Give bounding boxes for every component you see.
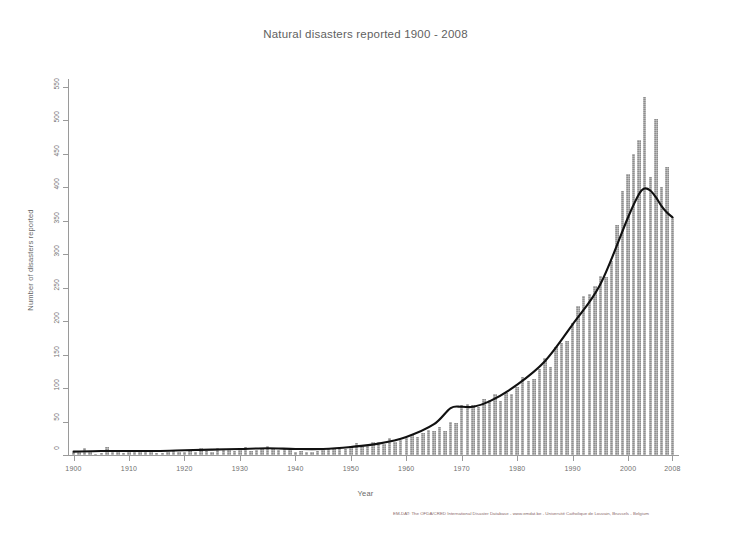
bar (438, 427, 441, 455)
x-tick-mark (628, 456, 629, 461)
bar (399, 440, 402, 455)
bar (665, 167, 668, 455)
bar (122, 453, 125, 455)
y-tick-mark (63, 288, 68, 289)
y-tick-mark (63, 120, 68, 121)
plot-area: 050100150200250300350400450500550 (68, 80, 678, 455)
x-tick-label: 1900 (65, 465, 81, 472)
bar (560, 343, 563, 456)
y-tick-mark (63, 355, 68, 356)
bar (233, 451, 236, 455)
bar (482, 399, 485, 455)
bar (421, 433, 424, 455)
bar (249, 451, 252, 455)
bar (332, 449, 335, 455)
bar (538, 369, 541, 455)
bar (504, 393, 507, 455)
chart-figure: Natural disasters reported 1900 - 2008 N… (0, 0, 731, 557)
x-tick-mark (129, 456, 130, 461)
bar (77, 452, 80, 455)
bar (94, 454, 97, 455)
y-tick-label: 200 (53, 312, 60, 323)
bar (271, 448, 274, 455)
bar (111, 451, 114, 455)
y-tick-label: 550 (53, 78, 60, 89)
bar (626, 174, 629, 455)
bar (260, 449, 263, 455)
x-tick-mark (406, 456, 407, 461)
x-tick-label: 2008 (664, 465, 680, 472)
bar (255, 450, 258, 455)
bar (210, 452, 213, 455)
x-tick-mark (74, 456, 75, 461)
bar (432, 431, 435, 455)
bar (155, 453, 158, 455)
bar (227, 450, 230, 455)
x-tick-mark (573, 456, 574, 461)
bar (316, 451, 319, 455)
y-tick-label: 50 (53, 413, 60, 421)
y-tick-mark (63, 321, 68, 322)
bar (393, 442, 396, 455)
bar (466, 404, 469, 455)
bar (549, 367, 552, 455)
x-tick-label: 1990 (564, 465, 580, 472)
bar (310, 452, 313, 455)
y-axis-label: Number of disasters reported (24, 175, 36, 345)
y-tick-mark (63, 87, 68, 88)
bar (305, 452, 308, 455)
bar (371, 442, 374, 455)
bar (593, 286, 596, 455)
y-tick-label: 350 (53, 212, 60, 223)
x-tick-label: 1920 (176, 465, 192, 472)
bar (349, 446, 352, 455)
x-tick-mark (295, 456, 296, 461)
y-tick-mark (63, 154, 68, 155)
bar (571, 323, 574, 455)
bar (493, 394, 496, 455)
bar (671, 217, 674, 455)
y-tick-mark (63, 254, 68, 255)
bar (327, 448, 330, 455)
bar (183, 452, 186, 455)
bar (244, 447, 247, 455)
y-tick-label: 450 (53, 145, 60, 156)
bar (405, 438, 408, 455)
bar (194, 452, 197, 455)
bar (177, 452, 180, 455)
y-tick-mark (63, 388, 68, 389)
bar (133, 452, 136, 455)
bar (576, 306, 579, 455)
bar (377, 442, 380, 455)
bar (188, 451, 191, 455)
bar (205, 451, 208, 455)
bar (554, 347, 557, 455)
bar (360, 445, 363, 455)
x-tick-label: 1930 (232, 465, 248, 472)
bar (366, 446, 369, 455)
bar (460, 405, 463, 455)
bar (83, 448, 86, 455)
bar (144, 451, 147, 455)
x-axis-ticks: 1900191019201930194019501960197019801990… (68, 456, 679, 480)
x-tick-label: 1910 (121, 465, 137, 472)
bar (604, 277, 607, 455)
trend-line-layer (68, 80, 678, 455)
bar (515, 387, 518, 455)
y-axis-label-text: Number of disasters reported (26, 209, 35, 310)
bar (615, 225, 618, 455)
x-tick-mark (351, 456, 352, 461)
bar (410, 435, 413, 455)
x-tick-label: 1960 (398, 465, 414, 472)
x-tick-mark (672, 456, 673, 461)
source-attribution: EM-DAT: The OFDA/CRED International Disa… (393, 511, 693, 516)
bar (105, 447, 108, 455)
y-tick-label: 100 (53, 379, 60, 390)
bar (161, 453, 164, 455)
bar (388, 438, 391, 455)
bar (338, 448, 341, 455)
y-tick-label: 250 (53, 279, 60, 290)
bar (565, 341, 568, 455)
bar (116, 452, 119, 455)
bar (100, 453, 103, 455)
